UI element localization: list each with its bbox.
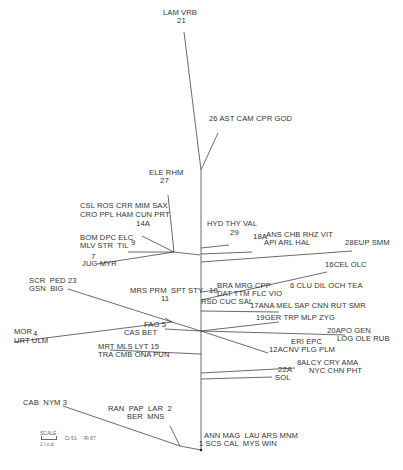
ri-value: Ri 87 xyxy=(84,435,96,441)
taxon-label-3: CAB NYM 3 xyxy=(23,399,67,407)
taxon-label-10-3: RSD CUC SAL xyxy=(201,298,253,306)
taxon-label-6: 6 CLU DIL OCH TEA xyxy=(290,282,363,290)
tree-branch xyxy=(168,195,174,252)
root-node xyxy=(200,449,203,452)
taxon-label-27-num: 27 xyxy=(160,177,169,185)
taxon-label-23-2: GSN BIG xyxy=(29,285,64,293)
taxon-label-22A: SOL xyxy=(275,374,291,382)
tree-branch xyxy=(201,377,272,379)
taxon-label-11-num: 11 xyxy=(161,295,169,303)
tree-branch xyxy=(201,133,218,170)
dendrogram-canvas: LAM VRB2126 AST CAM CPR GODELE RHM27CSL … xyxy=(0,0,403,470)
scale-legend: SCALE 1 i.n.d. xyxy=(40,430,57,447)
taxon-label-12A-2: 12ACNV PLG PLM xyxy=(269,346,335,354)
taxon-label-4-1: MOR xyxy=(14,328,32,336)
taxon-label-26: 26 AST CAM CPR GOD xyxy=(209,115,292,123)
tree-branch xyxy=(180,446,201,450)
taxon-label-18A-2: API ARL HAL xyxy=(264,239,310,247)
tree-branch xyxy=(184,32,201,170)
taxon-label-19: 19GER TRP MLP ZYG xyxy=(256,314,335,322)
taxon-label-7: JUG MYR xyxy=(82,260,117,268)
taxon-label-1-2: 1 SCS CAL MYS WIN xyxy=(199,440,277,448)
taxon-label-15-2: TRA CMB ONA PUN xyxy=(98,351,170,359)
taxon-label-20-2: LOG OLE RUB xyxy=(337,335,390,343)
taxon-label-2-2: BER MNS xyxy=(127,413,165,421)
taxon-label-28: 28EUP SMM xyxy=(345,239,390,247)
taxon-label-5-2: CAS BET xyxy=(124,329,157,337)
taxon-label-14A-1: CSL ROS CRR MIM SAX xyxy=(80,202,168,210)
scale-label: SCALE xyxy=(40,430,57,436)
tree-branch xyxy=(201,322,279,331)
scale-unit: 1 i.n.d. xyxy=(40,441,57,447)
tree-branch xyxy=(174,252,200,255)
taxon-label-29-num: 29 xyxy=(230,229,239,237)
taxon-label-14A-num: 14A xyxy=(136,220,150,228)
taxon-label-14A-2: CRO PPL HAM CUN PRT xyxy=(80,211,170,219)
taxon-label-16: 16CEL OLC xyxy=(325,261,367,269)
taxon-label-17: 17ANA MEL SAP CNN RUT SMR xyxy=(250,302,366,310)
ci-value: Ci 91 xyxy=(65,435,77,441)
tree-branch xyxy=(201,252,252,254)
taxon-label-9-num: 9 xyxy=(131,239,135,247)
taxon-label-9-2: MLV STR TIL xyxy=(80,242,129,250)
taxon-label-8A-2: NYC CHN PHT xyxy=(309,367,362,375)
tree-branch xyxy=(201,311,279,312)
taxon-label-21-num: 21 xyxy=(177,17,186,25)
tree-branch xyxy=(142,236,174,252)
tree-branch xyxy=(201,331,268,353)
taxon-label-29-1: HYD THY VAL xyxy=(207,220,257,228)
tree-branch xyxy=(201,331,345,335)
scale-bar xyxy=(41,436,57,440)
taxon-label-4-2: URT ULM xyxy=(14,337,48,345)
tree-branch xyxy=(201,245,229,248)
